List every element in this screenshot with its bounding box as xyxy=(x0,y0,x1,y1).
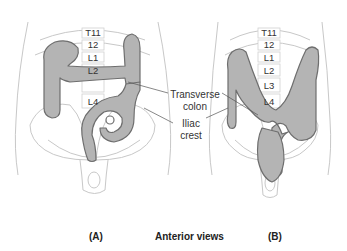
vertebra-label: L2 xyxy=(257,66,281,76)
callout-line: Transverse xyxy=(167,89,223,101)
vertebra-label: T11 xyxy=(257,28,281,38)
transverse-colon-callout: Transverse colon xyxy=(167,89,223,112)
anatomy-illustration xyxy=(0,0,347,251)
callout-line: crest xyxy=(175,130,207,142)
vertebra-label: L3 xyxy=(257,81,281,91)
iliac-crest-callout: Iliac crest xyxy=(175,118,207,141)
vertebra-label: L1 xyxy=(81,53,105,63)
vertebra-label: T11 xyxy=(81,28,105,38)
panel-b-label: (B) xyxy=(268,231,282,242)
vertebra-label: L2 xyxy=(81,66,105,76)
vertebra-label: 12 xyxy=(257,40,281,50)
panel-a-label: (A) xyxy=(89,231,103,242)
vertebra-label: L4 xyxy=(257,97,281,107)
colon-position-diagram: T11 12 L1 L2 L4 T11 12 L1 L2 L3 L4 Trans… xyxy=(0,0,347,251)
callout-line: Iliac xyxy=(175,118,207,130)
vertebra-label: 12 xyxy=(81,40,105,50)
figure-caption: Anterior views xyxy=(155,231,224,242)
vertebra-label: L1 xyxy=(257,53,281,63)
callout-line: colon xyxy=(167,101,223,113)
vertebra-label: L4 xyxy=(81,97,105,107)
